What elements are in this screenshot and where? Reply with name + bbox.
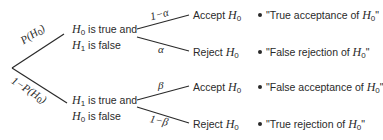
close: " — [375, 9, 379, 21]
sub: 0 — [234, 51, 238, 60]
text: is true and — [85, 94, 137, 106]
node-line-1: H0 is true and — [72, 23, 137, 39]
decision-reject-h0-1: Reject H0 — [193, 46, 239, 62]
var: H — [72, 22, 81, 36]
close: " — [361, 118, 365, 130]
edge-label-beta: β — [158, 79, 163, 91]
outcome-false-acceptance: "False acceptance of H0" — [258, 81, 383, 97]
text: Accept — [193, 81, 228, 93]
var: H — [367, 80, 376, 94]
bullet-icon — [258, 50, 262, 54]
text: "False rejection of — [266, 46, 353, 58]
var: H — [228, 8, 237, 22]
node-line-2: H0 is false — [72, 110, 137, 126]
outcome-false-rejection: "False rejection of H0" — [258, 46, 369, 62]
var: H — [72, 109, 81, 123]
node-line-1: H1 is true and — [72, 94, 137, 110]
decision-reject-h0-2: Reject H0 — [193, 118, 239, 134]
text: "False acceptance of — [266, 81, 367, 93]
bullet-icon — [258, 13, 262, 17]
decision-accept-h0-2: Accept H0 — [193, 81, 241, 97]
text: "True rejection of — [266, 118, 348, 130]
text: is true and — [85, 23, 137, 35]
text: Reject — [193, 118, 226, 130]
var: H — [353, 45, 362, 59]
close: " — [366, 46, 370, 58]
text: is false — [85, 110, 121, 122]
var: H — [72, 93, 81, 107]
var: H — [72, 38, 81, 52]
text: is false — [85, 39, 121, 51]
outcome-true-acceptance: "True acceptance of H0" — [258, 9, 379, 25]
text: Accept — [193, 9, 228, 21]
sub: 0 — [237, 86, 241, 95]
sub: 0 — [234, 123, 238, 132]
var: H — [362, 8, 371, 22]
var: H — [228, 80, 237, 94]
bullet-icon — [258, 122, 262, 126]
node-h0-true: H0 is true and H1 is false — [72, 23, 137, 55]
sub: 0 — [237, 14, 241, 23]
text: Reject — [193, 46, 226, 58]
edge-label-alpha: α — [158, 43, 164, 55]
text: "True acceptance of — [266, 9, 362, 21]
node-line-2: H1 is false — [72, 39, 137, 55]
outcome-true-rejection: "True rejection of H0" — [258, 118, 365, 134]
bullet-icon — [258, 85, 262, 89]
decision-accept-h0-1: Accept H0 — [193, 9, 241, 25]
node-h1-true: H1 is true and H0 is false — [72, 94, 137, 126]
var: H — [348, 117, 357, 131]
